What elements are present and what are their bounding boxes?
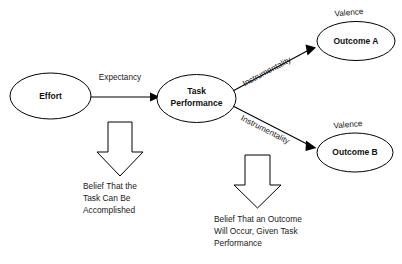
block-arrow-instrumentality-definition [234, 155, 281, 208]
expectancy-theory-diagram: Effort Task Performance Outcome A Outcom… [0, 0, 402, 264]
node-outcome-b[interactable]: Outcome B [317, 133, 393, 172]
caption-instrumentality-line2: Will Occur, Given Task [214, 226, 298, 236]
caption-instrumentality-definition: Belief That an Outcome Will Occur, Given… [214, 214, 302, 248]
caption-expectancy-line1: Belief That the [83, 181, 137, 191]
edge-line-instrumentality-b [231, 105, 307, 144]
edge-label-instrumentality-upper: Instrumentality [241, 55, 293, 88]
caption-expectancy-definition: Belief That the Task Can Be Accomplished [83, 181, 137, 215]
annotation-valence-outcome-a: Valence [334, 7, 364, 19]
edge-effort-to-performance [91, 93, 160, 102]
arrowhead-instrumentality-a [306, 45, 317, 56]
caption-expectancy-line3: Accomplished [83, 205, 135, 215]
node-task-performance-label-line1: Task [187, 86, 206, 96]
node-task-performance[interactable]: Task Performance [157, 75, 236, 123]
node-outcome-a-label: Outcome A [333, 36, 378, 46]
node-outcome-b-label: Outcome B [332, 147, 377, 157]
node-task-performance-label-line2: Performance [171, 98, 223, 108]
block-arrow-expectancy-definition [97, 122, 143, 176]
diagram-canvas: Effort Task Performance Outcome A Outcom… [0, 0, 402, 264]
caption-expectancy-line2: Task Can Be [83, 193, 131, 203]
caption-instrumentality-line1: Belief That an Outcome [214, 214, 302, 224]
caption-instrumentality-line3: Performance [214, 238, 262, 248]
node-effort[interactable]: Effort [10, 73, 91, 119]
node-effort-label: Effort [39, 91, 62, 101]
annotation-valence-outcome-b: Valence [333, 119, 363, 131]
edge-label-instrumentality-lower: Instrumentality [239, 114, 291, 147]
arrowhead-instrumentality-b [306, 141, 317, 152]
edge-label-expectancy: Expectancy [99, 73, 142, 82]
node-outcome-a[interactable]: Outcome A [317, 22, 395, 61]
